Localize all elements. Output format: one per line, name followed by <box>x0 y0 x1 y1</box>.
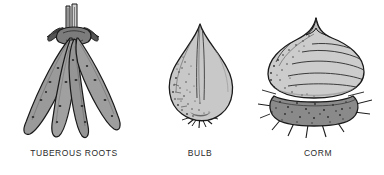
stem-stub-group <box>66 4 77 30</box>
panel-bulb: BULB <box>148 0 252 175</box>
panel-corm: CORM <box>252 0 384 175</box>
bulb-illustration <box>148 0 252 146</box>
caption-tuberous-roots: TUBEROUS ROOTS <box>0 148 148 158</box>
caption-bulb: BULB <box>148 148 252 158</box>
panel-tuberous-roots: TUBEROUS ROOTS <box>0 0 148 175</box>
corm-illustration <box>252 0 384 146</box>
tuberous-roots-illustration <box>0 0 148 146</box>
caption-corm: CORM <box>252 148 384 158</box>
plant-storage-organs-figure: TUBEROUS ROOTS <box>0 0 384 175</box>
